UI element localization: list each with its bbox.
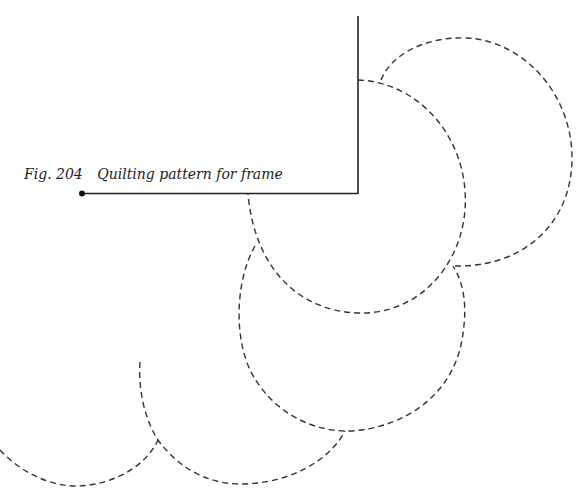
figure-caption: Fig. 204 Quilting pattern for frame (24, 166, 283, 182)
arc-bottom-middle (140, 362, 345, 484)
arc-bottom-left (0, 440, 158, 486)
arc-upper-right (381, 38, 572, 266)
quilting-pattern-diagram (0, 0, 582, 497)
figure-title: Quilting pattern for frame (97, 166, 283, 182)
arc-lower (239, 246, 465, 431)
arc-middle (248, 80, 465, 313)
quilting-arcs (0, 38, 572, 486)
frame-end-dot (79, 191, 85, 197)
figure-number: Fig. 204 (24, 166, 83, 182)
